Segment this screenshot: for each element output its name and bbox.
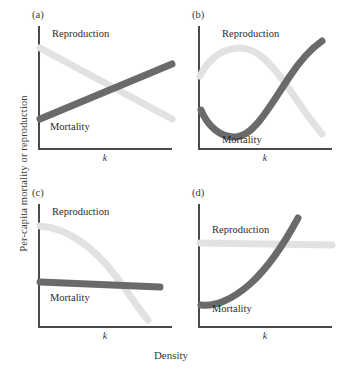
panel-b-reproduction-label: Reproduction bbox=[222, 28, 279, 39]
x-axis-label: Density bbox=[0, 349, 342, 361]
panel-a-label: (a) bbox=[32, 9, 44, 20]
panel-b-mortality-label: Mortality bbox=[222, 134, 262, 145]
panel-c-mortality-label: Mortality bbox=[50, 292, 90, 303]
panel-b: (b) Reproduction Mortality k bbox=[190, 10, 342, 170]
panel-c-k-tick: k bbox=[38, 330, 172, 341]
panel-d-reproduction-curve bbox=[200, 243, 332, 245]
panel-b-k-tick: k bbox=[198, 152, 332, 163]
panel-d-k-tick: k bbox=[198, 330, 332, 341]
panel-d-plot-area: Reproduction Mortality k bbox=[198, 204, 332, 328]
panel-c-mortality-curve bbox=[40, 282, 160, 287]
figure-panel-grid: Per-capita mortality or reproduction (a)… bbox=[0, 0, 342, 371]
panel-d-label: (d) bbox=[192, 187, 204, 198]
panel-d-reproduction-label: Reproduction bbox=[212, 224, 269, 235]
panel-a-reproduction-label: Reproduction bbox=[52, 28, 109, 39]
panel-a-plot-area: Reproduction Mortality k bbox=[38, 26, 172, 150]
panel-b-curves bbox=[198, 26, 332, 150]
panel-b-plot-area: Reproduction Mortality k bbox=[198, 26, 332, 150]
panel-c-reproduction-label: Reproduction bbox=[52, 206, 109, 217]
panel-a-k-tick: k bbox=[38, 152, 172, 163]
panel-b-label: (b) bbox=[192, 9, 204, 20]
panel-d: (d) Reproduction Mortality k bbox=[190, 188, 342, 348]
panel-c-curves bbox=[38, 204, 172, 328]
panel-a: (a) Reproduction Mortality k bbox=[30, 10, 182, 170]
panel-a-mortality-label: Mortality bbox=[50, 121, 90, 132]
panel-c: (c) Reproduction Mortality k bbox=[30, 188, 182, 348]
y-axis-label: Per-capita mortality or reproduction bbox=[18, 59, 29, 289]
panel-c-label: (c) bbox=[32, 187, 44, 198]
panel-d-mortality-label: Mortality bbox=[212, 303, 252, 314]
panel-c-plot-area: Reproduction Mortality k bbox=[38, 204, 172, 328]
panel-c-reproduction-curve bbox=[40, 226, 148, 320]
